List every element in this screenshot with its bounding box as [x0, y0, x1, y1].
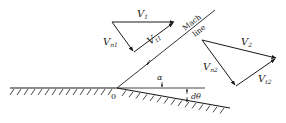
deflected-wall: [117, 88, 230, 114]
velocity-triangle-upstream: [112, 22, 174, 52]
label-vn1: Vn1: [103, 36, 118, 48]
label-dtheta: dθ: [191, 92, 201, 101]
upstream-wall: [10, 88, 117, 95]
label-alpha: α: [157, 73, 163, 82]
label-v1: V1: [137, 8, 148, 20]
label-v2: V2: [241, 36, 252, 48]
expansion-corner-diagram: V1 Vn1 Vt1 V2 Vn2 Vt2 Mach line α dθ 0: [0, 0, 286, 123]
label-vt2: Vt2: [258, 73, 272, 85]
label-vn2: Vn2: [203, 61, 218, 73]
label-corner: 0: [111, 92, 116, 101]
